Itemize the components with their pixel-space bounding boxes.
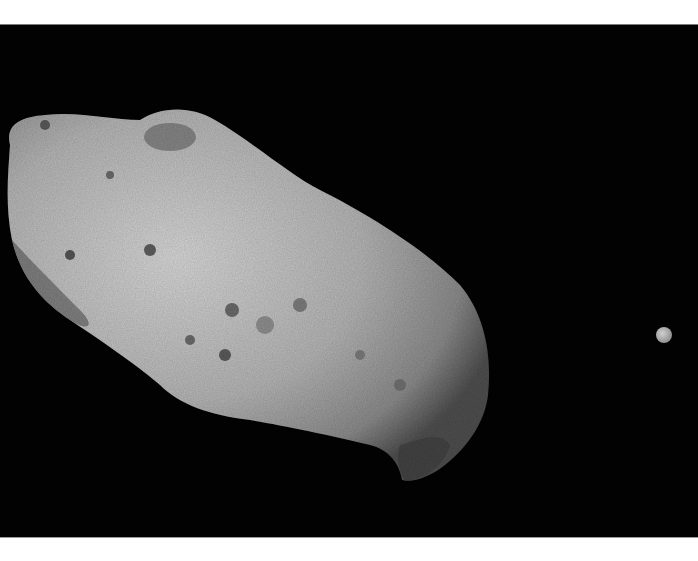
asteroid [8,109,489,481]
moon [656,327,672,343]
asteroid-scene [0,25,698,539]
bottom-margin [0,540,698,561]
space-photograph [0,24,698,538]
